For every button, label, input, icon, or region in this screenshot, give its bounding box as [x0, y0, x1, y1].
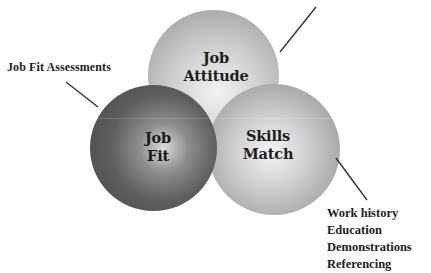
scan-artifact-line	[0, 118, 431, 119]
job-fit-assessments-callout: Job Fit Assessments	[7, 60, 111, 75]
list-item-demonstrations: Demonstrations	[327, 239, 412, 256]
attitude-connector-line	[280, 7, 316, 52]
job-fit-label: Job Fit	[112, 129, 204, 165]
job-fit-label-line2: Fit	[112, 147, 204, 165]
skills-match-label-line2: Match	[222, 145, 314, 163]
skills-match-label: Skills Match	[222, 127, 314, 163]
job-attitude-label: Job Attitude	[168, 49, 264, 85]
skills-match-label-line1: Skills	[222, 127, 314, 145]
list-item-referencing: Referencing	[327, 256, 412, 273]
job-fit-label-line1: Job	[112, 129, 204, 147]
fit-connector-line	[66, 82, 98, 107]
job-attitude-label-line1: Job	[168, 49, 264, 67]
list-item-work-history: Work history	[327, 205, 412, 222]
skills-match-callout-list: Work history Education Demonstrations Re…	[327, 205, 412, 273]
list-item-education: Education	[327, 222, 412, 239]
skills-connector-line	[336, 158, 367, 200]
job-attitude-label-line2: Attitude	[168, 67, 264, 85]
